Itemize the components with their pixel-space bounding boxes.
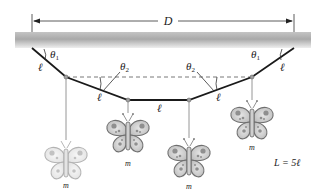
butterfly-1: m bbox=[45, 141, 87, 190]
equation-l-equals-5ell: L = 5ℓ bbox=[273, 157, 300, 168]
butterfly-mobile-diagram: D θ1 θ1 θ2 θ2 ℓ ℓ ℓ ℓ ℓ bbox=[0, 0, 323, 195]
dimension-d: D bbox=[32, 14, 294, 35]
mass-label: m bbox=[186, 182, 192, 191]
label-ell-2: ℓ bbox=[97, 91, 102, 103]
mass-label: m bbox=[125, 159, 131, 168]
arrow-right-icon bbox=[286, 19, 293, 24]
label-theta1-left: θ1 bbox=[50, 48, 59, 62]
label-ell-4: ℓ bbox=[216, 91, 221, 103]
string-joints bbox=[64, 75, 254, 102]
butterfly-3: m bbox=[168, 138, 210, 191]
mass-label: m bbox=[249, 143, 255, 152]
butterfly-4: m bbox=[231, 100, 273, 152]
arrow-left-icon bbox=[33, 19, 40, 24]
angle-marks bbox=[44, 49, 282, 91]
label-ell-3: ℓ bbox=[157, 102, 162, 114]
mass-label: m bbox=[63, 181, 69, 190]
label-ell-1: ℓ bbox=[38, 61, 43, 73]
label-d: D bbox=[163, 14, 173, 28]
label-theta1-right: θ1 bbox=[251, 48, 260, 62]
label-ell-5: ℓ bbox=[280, 61, 285, 73]
label-theta2-right: θ2 bbox=[186, 60, 195, 74]
segment-labels: ℓ ℓ ℓ ℓ ℓ bbox=[38, 61, 285, 114]
label-theta2-left: θ2 bbox=[120, 60, 129, 74]
butterfly-2: m bbox=[107, 113, 149, 168]
ceiling-bar bbox=[15, 32, 311, 48]
